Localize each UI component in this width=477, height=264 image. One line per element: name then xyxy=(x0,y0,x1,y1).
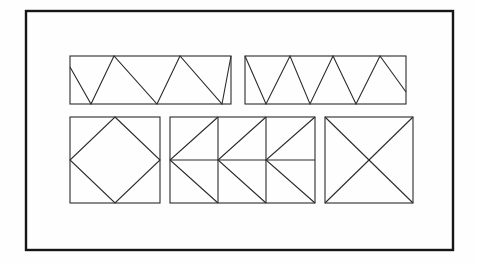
figure-diagram xyxy=(0,0,477,264)
worksheet-canvas xyxy=(0,0,477,264)
canvas-background xyxy=(0,0,477,264)
